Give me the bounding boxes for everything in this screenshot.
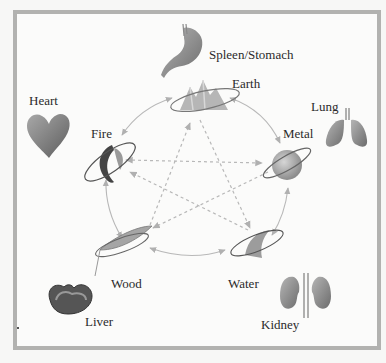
flame-icon bbox=[80, 137, 141, 188]
arrow-fire-metal bbox=[126, 160, 262, 163]
arrow-water-wood bbox=[150, 248, 225, 256]
label-heart: Heart bbox=[29, 94, 58, 107]
wave-icon bbox=[228, 225, 286, 261]
label-lung: Lung bbox=[311, 100, 338, 113]
arrow-fire-earth bbox=[122, 98, 172, 135]
arrow-earth-metal bbox=[230, 98, 280, 143]
arrow-wood-fire bbox=[106, 180, 122, 238]
label-kidney: Kidney bbox=[261, 318, 299, 331]
kidney-icon bbox=[280, 273, 331, 318]
label-wood: Wood bbox=[111, 277, 142, 290]
label-liver: Liver bbox=[85, 315, 113, 328]
label-metal: Metal bbox=[283, 127, 313, 140]
label-spleen-stomach: Spleen/Stomach bbox=[209, 48, 294, 61]
label-water: Water bbox=[228, 277, 259, 290]
controlling-cycle bbox=[126, 120, 268, 230]
five-elements-diagram bbox=[0, 0, 386, 363]
stray-dot bbox=[17, 327, 19, 329]
arrow-metal-wood bbox=[153, 172, 268, 228]
liver-icon bbox=[49, 285, 92, 314]
label-earth: Earth bbox=[232, 77, 260, 90]
arrow-water-fire bbox=[130, 172, 248, 230]
sphere-icon bbox=[260, 143, 314, 182]
heart-icon bbox=[27, 114, 70, 158]
arrow-earth-water bbox=[200, 120, 250, 228]
leaf-icon bbox=[93, 226, 152, 276]
arrow-metal-water bbox=[272, 188, 288, 235]
label-fire: Fire bbox=[91, 127, 112, 140]
stomach-icon bbox=[161, 24, 202, 78]
arrow-wood-earth bbox=[150, 123, 190, 225]
